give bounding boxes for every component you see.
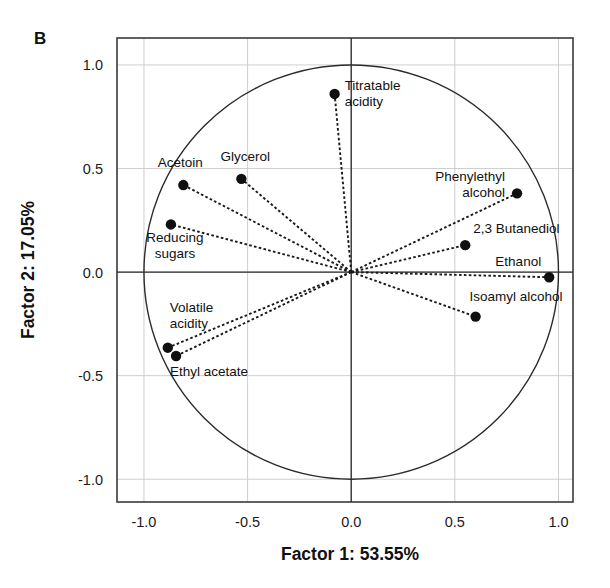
x-tick-label: -1.0 xyxy=(131,514,156,530)
y-tick-label: 1.0 xyxy=(83,57,103,73)
x-axis-title: Factor 1: 53.55% xyxy=(281,544,420,564)
x-tick-label: 0.0 xyxy=(341,514,361,530)
loading-point-label-line: Volatile xyxy=(170,300,214,315)
loading-point-label-line: 2,3 Butanediol xyxy=(473,221,559,236)
y-axis-title: Factor 2: 17.05% xyxy=(18,201,38,340)
loading-point-label-line: Glycerol xyxy=(221,149,271,164)
loading-point-label-line: Isoamyl alcohol xyxy=(470,289,563,304)
loading-point-label-line: Acetoin xyxy=(158,155,203,170)
x-tick-label: 0.5 xyxy=(445,514,465,530)
loading-point-label-line: sugars xyxy=(155,246,196,261)
loading-point xyxy=(236,174,246,184)
panel-label: B xyxy=(34,29,46,48)
loading-point xyxy=(171,351,181,361)
loading-point xyxy=(460,240,470,250)
loading-point-label-line: Ethanol xyxy=(495,254,541,269)
loading-point-label-line: acidity xyxy=(170,316,209,331)
x-tick-label: 1.0 xyxy=(548,514,568,530)
loading-point xyxy=(544,272,554,282)
x-tick-label: -0.5 xyxy=(235,514,260,530)
loading-point-label: Ethanol xyxy=(495,254,541,269)
loading-point xyxy=(178,180,188,190)
loading-point xyxy=(166,219,176,229)
loading-point xyxy=(512,188,522,198)
y-tick-label: 0.5 xyxy=(83,161,103,177)
loading-point xyxy=(163,342,173,352)
loading-point-label-line: acidity xyxy=(345,94,384,109)
loading-point-label: 2,3 Butanediol xyxy=(473,221,559,236)
loading-point-label: Reducingsugars xyxy=(146,230,203,261)
y-tick-label: -1.0 xyxy=(78,472,103,488)
loading-point-label-line: Reducing xyxy=(146,230,203,245)
y-tick-label: 0.0 xyxy=(83,265,103,281)
loading-point-label-line: Phenylethyl xyxy=(435,169,505,184)
loading-point-label: Volatileacidity xyxy=(170,300,214,331)
loading-point-label: Acetoin xyxy=(158,155,203,170)
y-tick-label: -0.5 xyxy=(78,368,103,384)
loading-point-label: Glycerol xyxy=(221,149,271,164)
loading-point-label-line: alcohol xyxy=(462,185,505,200)
loading-point-label: Isoamyl alcohol xyxy=(470,289,563,304)
loading-point xyxy=(329,89,339,99)
loading-point-label-line: Ethyl acetate xyxy=(170,364,248,379)
loading-point-label: Ethyl acetate xyxy=(170,364,248,379)
loading-point-label-line: Titratable xyxy=(345,78,401,93)
pca-loading-plot: B TitratableacidityAcetoinGlycerolReduci… xyxy=(0,0,610,588)
loading-point xyxy=(470,311,480,321)
